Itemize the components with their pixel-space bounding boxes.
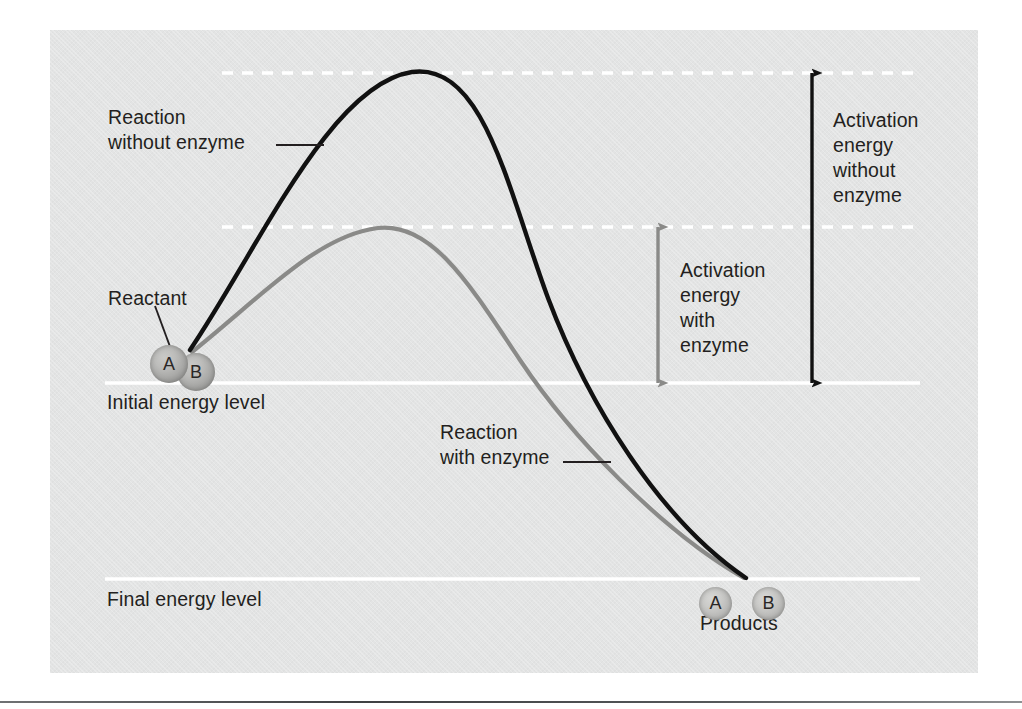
molecule-product-a: A xyxy=(699,587,732,620)
molecule-reactant-a: A xyxy=(150,345,188,383)
label-final-energy-level: Final energy level xyxy=(107,587,262,612)
molecule-reactant-b-letter: B xyxy=(190,362,202,383)
figure-bottom-rule xyxy=(0,701,1022,703)
label-reaction-without-enzyme: Reaction without enzyme xyxy=(108,105,245,155)
enzyme-activation-energy-figure: Reaction without enzyme Reactant Initial… xyxy=(0,0,1022,709)
curve-reaction-without-enzyme xyxy=(190,71,746,578)
label-reaction-with-enzyme: Reaction with enzyme xyxy=(440,420,549,470)
molecule-reactant-a-letter: A xyxy=(163,354,175,375)
label-activation-energy-without-enzyme: Activation energy without enzyme xyxy=(833,108,919,208)
molecule-product-b: B xyxy=(752,587,785,620)
curve-reaction-with-enzyme xyxy=(192,228,744,578)
label-initial-energy-level: Initial energy level xyxy=(107,390,265,415)
molecule-product-b-letter: B xyxy=(762,593,774,614)
label-reactant: Reactant xyxy=(108,286,187,311)
molecule-product-a-letter: A xyxy=(709,593,721,614)
label-activation-energy-with-enzyme: Activation energy with enzyme xyxy=(680,258,766,358)
